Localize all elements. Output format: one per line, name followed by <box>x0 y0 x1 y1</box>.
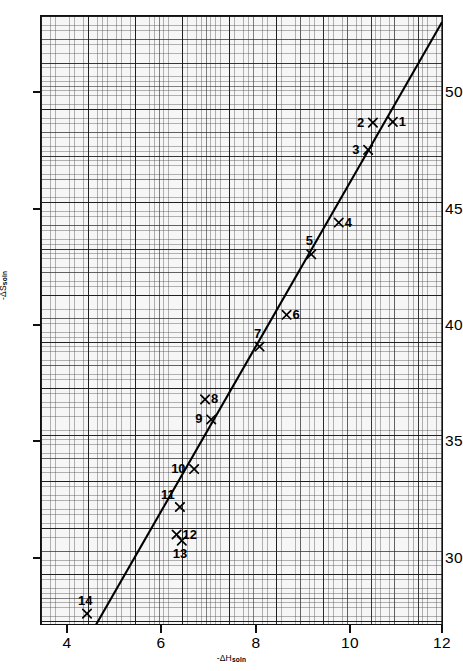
x-tick-label-4: 4 <box>47 635 87 651</box>
x-axis-title-sub: soln <box>232 656 246 663</box>
data-point-marker <box>282 311 290 319</box>
data-point-label: 10 <box>171 462 185 475</box>
x-tick-mark <box>160 624 162 633</box>
y-axis-title: -ΔSsoln <box>0 271 8 300</box>
data-point-label: 6 <box>293 308 300 321</box>
x-tick-label-12: 12 <box>422 635 462 651</box>
data-point-marker <box>176 503 184 511</box>
x-tick-label-6: 6 <box>141 635 181 651</box>
x-tick-mark <box>255 624 257 633</box>
data-point-marker <box>389 118 397 126</box>
data-point-marker <box>190 465 198 473</box>
data-markers <box>83 118 397 618</box>
fit-line-segment <box>96 22 442 625</box>
x-tick-mark <box>349 624 351 633</box>
data-point-label: 12 <box>183 528 197 541</box>
data-point-marker <box>201 395 209 403</box>
fit-line <box>96 22 442 625</box>
data-point-label: 9 <box>195 412 202 425</box>
scatter-chart: 50 45 40 35 30 4 6 8 10 12 -ΔSsoln -ΔHso… <box>0 0 463 671</box>
y-axis-title-text: -ΔS <box>0 285 8 300</box>
plot-area <box>40 15 443 625</box>
data-point-label: 11 <box>161 488 175 501</box>
x-tick-mark <box>66 624 68 633</box>
data-point-label: 7 <box>254 327 261 340</box>
x-tick-mark <box>441 624 443 633</box>
data-point-label: 2 <box>357 116 364 129</box>
x-tick-label-8: 8 <box>236 635 276 651</box>
data-point-marker <box>369 118 377 126</box>
data-point-marker <box>83 609 91 617</box>
x-axis-title: -ΔHsoln <box>0 653 463 663</box>
data-point-label: 4 <box>345 216 352 229</box>
data-point-label: 3 <box>352 143 359 156</box>
data-point-label: 13 <box>173 547 187 560</box>
x-axis-title-text: -ΔH <box>217 653 232 663</box>
plot-svg <box>41 16 443 625</box>
data-point-label: 8 <box>211 392 218 405</box>
data-point-label: 5 <box>306 234 313 247</box>
data-point-label: 14 <box>78 594 92 607</box>
y-axis-title-sub: soln <box>1 271 8 285</box>
x-tick-label-10: 10 <box>330 635 370 651</box>
data-point-label: 1 <box>399 115 406 128</box>
data-point-marker <box>335 218 343 226</box>
